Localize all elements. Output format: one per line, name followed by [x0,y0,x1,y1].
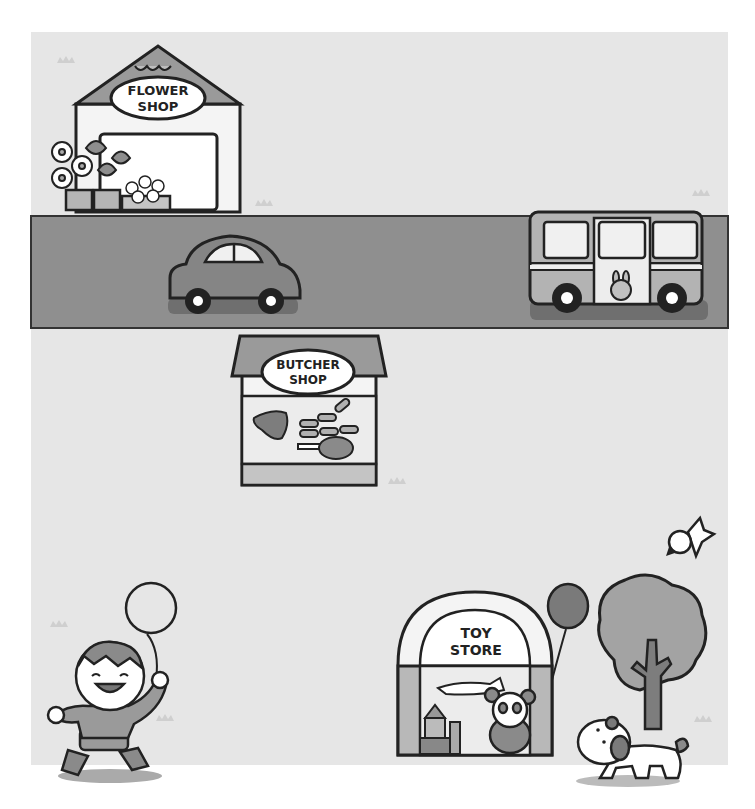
toy-store: TOY STORE [398,592,552,755]
flower-shop-sign-line2: SHOP [138,99,179,114]
butcher-shop-sign-line2: SHOP [289,373,327,387]
bus [530,212,708,320]
flower-pot [66,190,92,210]
butcher-shop: BUTCHER SHOP [232,336,386,485]
butcher-shop-sign [262,350,354,394]
toy-store-sign-line2: STORE [450,642,502,658]
bus-window [653,222,697,258]
town-scene: FLOWER SHOP [0,0,755,809]
bus-window [544,222,588,258]
toy-store-sign-line1: TOY [460,625,492,641]
bus-window [599,222,645,258]
flower-shop-sign-line1: FLOWER [128,83,189,98]
flower-box [122,196,170,210]
flower-pot [94,190,120,210]
butcher-shop-sign-line1: BUTCHER [276,358,339,372]
